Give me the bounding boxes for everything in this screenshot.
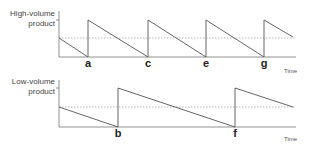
high-volume-panel: High-volume product a c e g Time [10,9,298,74]
point-label-c: c [145,57,151,69]
ylabel-line1: High-volume [10,9,55,18]
inventory-diagram: High-volume product a c e g Time Low-vol… [0,0,312,149]
ylabel-line1: Low-volume [12,77,56,86]
point-label-g: g [261,57,268,69]
point-label-a: a [85,57,92,69]
ylabel-line2: product [28,19,55,28]
inventory-sawtooth [59,88,293,127]
low-volume-panel: Low-volume product b f Time [12,77,298,142]
x-axis-label: Time [284,136,298,142]
point-label-f: f [233,127,237,139]
ylabel-line2: product [28,87,55,96]
x-axis-label: Time [284,68,298,74]
inventory-sawtooth [59,20,293,57]
point-label-b: b [115,127,122,139]
point-label-e: e [203,57,209,69]
